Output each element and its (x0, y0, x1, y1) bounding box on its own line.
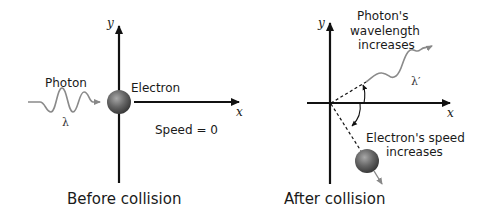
photon-wavelength-note-line3: increases (358, 38, 415, 52)
photon-angle-arc (363, 85, 365, 103)
electron-angle-arc (352, 103, 360, 126)
electron-icon (107, 90, 131, 114)
scattered-wavelength-label: λ′ (411, 75, 421, 88)
incoming-photon-wave-icon (28, 88, 100, 112)
speed-label: Speed = 0 (155, 123, 218, 137)
electron-speed-note-line1: Electron's speed (366, 131, 465, 145)
compton-scattering-diagram: y x Photon λ Electron Speed = 0 Before c… (0, 0, 483, 218)
electron-direction-dashed-line (331, 104, 361, 151)
before-collision-caption: Before collision (67, 190, 181, 208)
recoil-electron-icon (355, 149, 379, 173)
before-y-axis-label: y (106, 16, 114, 30)
wavelength-label: λ (62, 116, 69, 129)
before-x-axis-label: x (236, 105, 243, 119)
after-y-axis-label: y (317, 16, 325, 30)
after-collision-panel: y x Photon's wavelength increases λ′ Ele… (284, 9, 465, 208)
photon-wavelength-note-line1: Photon's (357, 9, 408, 23)
after-x-axis-label: x (447, 106, 454, 120)
photon-label: Photon (45, 76, 87, 90)
electron-label: Electron (131, 81, 180, 95)
after-collision-caption: After collision (284, 190, 385, 208)
photon-direction-dashed-line (331, 82, 366, 103)
photon-wavelength-note-line2: wavelength (350, 24, 420, 38)
electron-motion-arrow (374, 171, 382, 184)
before-collision-panel: y x Photon λ Electron Speed = 0 Before c… (28, 16, 243, 208)
electron-speed-note-line2: increases (386, 145, 443, 159)
